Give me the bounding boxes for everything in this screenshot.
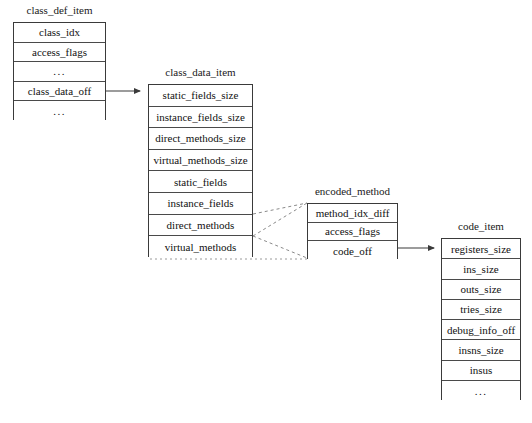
- field-row[interactable]: outs_size: [442, 280, 520, 300]
- field-row[interactable]: access_flags: [308, 223, 397, 242]
- field-row[interactable]: registers_size: [442, 239, 520, 259]
- field-row[interactable]: direct_methods: [149, 215, 252, 237]
- diagram-canvas: class_def_item class_idx access_flags ..…: [0, 0, 532, 423]
- struct-table-code-item: registers_size ins_size outs_size tries_…: [441, 238, 521, 400]
- field-row[interactable]: direct_methods_size: [149, 128, 252, 150]
- field-row[interactable]: static_fields_size: [149, 85, 252, 107]
- field-row[interactable]: debug_info_off: [442, 320, 520, 340]
- field-row[interactable]: ins_size: [442, 259, 520, 279]
- field-row[interactable]: method_idx_diff: [308, 204, 397, 223]
- field-row[interactable]: insus: [442, 361, 520, 381]
- struct-table-class-def-item: class_idx access_flags ... class_data_of…: [13, 22, 106, 120]
- struct-title-encoded-method: encoded_method: [307, 185, 398, 197]
- field-row[interactable]: tries_size: [442, 300, 520, 320]
- field-row[interactable]: code_off: [308, 241, 397, 260]
- field-row[interactable]: access_flags: [14, 43, 105, 63]
- struct-code-item: code_item registers_size ins_size outs_s…: [441, 220, 521, 400]
- field-row[interactable]: ...: [14, 101, 105, 120]
- field-row[interactable]: class_idx: [14, 23, 105, 43]
- field-row[interactable]: instance_fields: [149, 193, 252, 215]
- struct-title-code-item: code_item: [441, 220, 521, 232]
- struct-table-encoded-method: method_idx_diff access_flags code_off: [307, 203, 398, 259]
- struct-class-data-item: class_data_item static_fields_size insta…: [148, 66, 253, 257]
- struct-title-class-def-item: class_def_item: [13, 4, 106, 16]
- field-row[interactable]: class_data_off: [14, 82, 105, 102]
- field-row[interactable]: ...: [442, 381, 520, 401]
- field-row[interactable]: static_fields: [149, 171, 252, 193]
- field-row[interactable]: instance_fields_size: [149, 107, 252, 129]
- struct-class-def-item: class_def_item class_idx access_flags ..…: [13, 4, 106, 120]
- field-row[interactable]: ...: [14, 62, 105, 82]
- field-row[interactable]: virtual_methods: [149, 236, 252, 258]
- struct-encoded-method: encoded_method method_idx_diff access_fl…: [307, 185, 398, 259]
- field-row[interactable]: virtual_methods_size: [149, 150, 252, 172]
- field-row[interactable]: insns_size: [442, 340, 520, 360]
- connector-methods-to-encoded-method: [253, 203, 307, 258]
- struct-table-class-data-item: static_fields_size instance_fields_size …: [148, 84, 253, 257]
- struct-title-class-data-item: class_data_item: [148, 66, 253, 78]
